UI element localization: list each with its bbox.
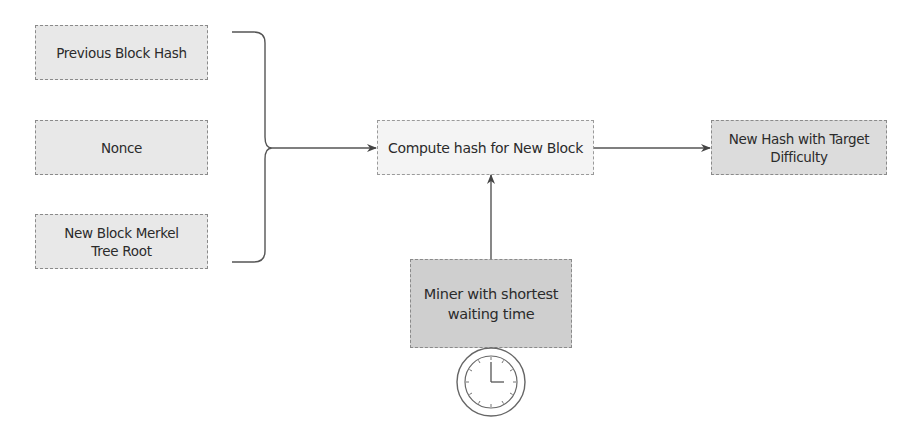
connectors-layer [0,0,911,437]
clock-icon [457,348,525,416]
brace [232,32,272,262]
